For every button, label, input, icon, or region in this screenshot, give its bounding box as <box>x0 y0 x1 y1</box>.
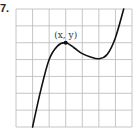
local-max-point <box>64 41 68 45</box>
grid <box>16 9 132 127</box>
curve <box>33 9 124 127</box>
point-label: (x, y) <box>54 30 77 40</box>
graph: (x, y) <box>0 0 139 136</box>
